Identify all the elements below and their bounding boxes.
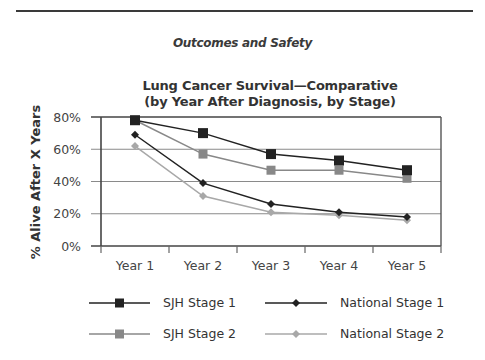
legend-label-national-stage-1: National Stage 1 xyxy=(340,295,444,310)
legend-swatch xyxy=(265,299,327,307)
square-marker xyxy=(335,166,344,175)
x-tick-label: Year 1 xyxy=(115,258,154,273)
axes: 0%20%40%60%80%Year 1Year 2Year 3Year 4Ye… xyxy=(53,110,441,274)
legend-swatch xyxy=(89,299,150,308)
diamond-marker xyxy=(292,299,300,307)
square-marker xyxy=(402,165,412,175)
y-tick-label: 20% xyxy=(53,206,81,221)
x-tick-label: Year 4 xyxy=(319,258,358,273)
diamond-marker xyxy=(267,208,275,216)
square-marker xyxy=(334,156,344,166)
y-axis-label: % Alive After X Years xyxy=(28,104,43,259)
series-lines xyxy=(130,115,412,224)
x-tick-label: Year 5 xyxy=(387,258,426,273)
square-marker xyxy=(266,149,276,159)
x-tick-label: Year 3 xyxy=(251,258,290,273)
legend-swatch xyxy=(265,330,327,338)
y-tick-label: 40% xyxy=(53,174,81,189)
series-national-stage-1 xyxy=(131,131,411,221)
y-tick-label: 0% xyxy=(61,239,81,254)
legend-label-sjh-stage-2: SJH Stage 2 xyxy=(163,326,236,341)
diamond-marker xyxy=(267,200,275,208)
legend-label-national-stage-2: National Stage 2 xyxy=(340,326,444,341)
y-tick-label: 80% xyxy=(53,110,81,125)
legend-label-sjh-stage-1: SJH Stage 1 xyxy=(163,295,236,310)
diamond-marker xyxy=(292,330,300,338)
y-tick-label: 60% xyxy=(53,142,81,157)
square-marker xyxy=(115,330,124,339)
square-marker xyxy=(267,166,276,175)
x-tick-label: Year 2 xyxy=(183,258,222,273)
legend-swatch xyxy=(89,330,150,339)
square-marker xyxy=(130,115,140,125)
square-marker xyxy=(115,299,124,308)
square-marker xyxy=(199,150,208,159)
grid-lines xyxy=(91,117,441,246)
square-marker xyxy=(198,128,208,138)
